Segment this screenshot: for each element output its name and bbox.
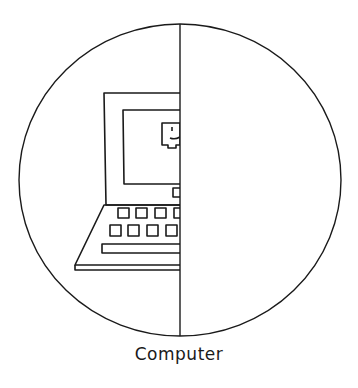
computer-diagram [0, 0, 358, 388]
key [128, 225, 139, 236]
caption: Computer [0, 344, 358, 364]
laptop-base [75, 205, 200, 265]
key [110, 225, 121, 236]
laptop-screen [123, 110, 200, 184]
key [155, 208, 166, 218]
key [166, 225, 177, 236]
key [118, 208, 129, 218]
laptop-icon [75, 93, 200, 270]
finder-face-icon [162, 123, 180, 148]
spacebar [102, 244, 192, 253]
key [136, 208, 147, 218]
key [147, 225, 158, 236]
laptop-port [173, 188, 183, 197]
